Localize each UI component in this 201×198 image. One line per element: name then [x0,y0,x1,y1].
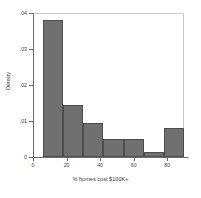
histogram-figure: 0.01.02.03.04 020406080 Density % homes … [0,0,201,198]
histogram-bar [103,139,123,157]
y-axis-tick-mark [29,49,33,50]
x-axis-tick-mark [67,157,68,161]
histogram-bar [164,128,184,157]
histogram-bar [63,105,83,157]
bar-series [33,14,183,157]
y-axis-title: Density [5,61,11,101]
y-axis-tick-mark [29,13,33,14]
x-axis-tick-label: 60 [131,162,137,168]
y-axis-tick-mark [29,121,33,122]
x-axis-tick-label: 40 [97,162,103,168]
histogram-bar [83,123,103,157]
y-axis-tick-label: .04 [10,10,27,16]
x-axis-tick-mark [167,157,168,161]
x-axis-tick-label: 80 [164,162,170,168]
x-axis-tick-mark [33,157,34,161]
y-axis-tick-label: .03 [10,46,27,52]
x-axis-tick-mark [100,157,101,161]
y-axis-tick-label: .02 [10,82,27,88]
y-axis-tick-label: .01 [10,118,27,124]
plot-area [33,13,184,157]
y-axis-tick-label: 0 [10,154,27,160]
x-axis-line [29,157,188,158]
x-axis-tick-label: 0 [32,162,35,168]
histogram-bar [43,20,63,157]
y-axis-tick-mark [29,85,33,86]
histogram-bar [124,139,144,157]
x-axis-tick-label: 20 [64,162,70,168]
y-axis-line [33,13,34,157]
x-axis-title: % homes cost $100K+ [0,176,201,182]
x-axis-tick-mark [134,157,135,161]
